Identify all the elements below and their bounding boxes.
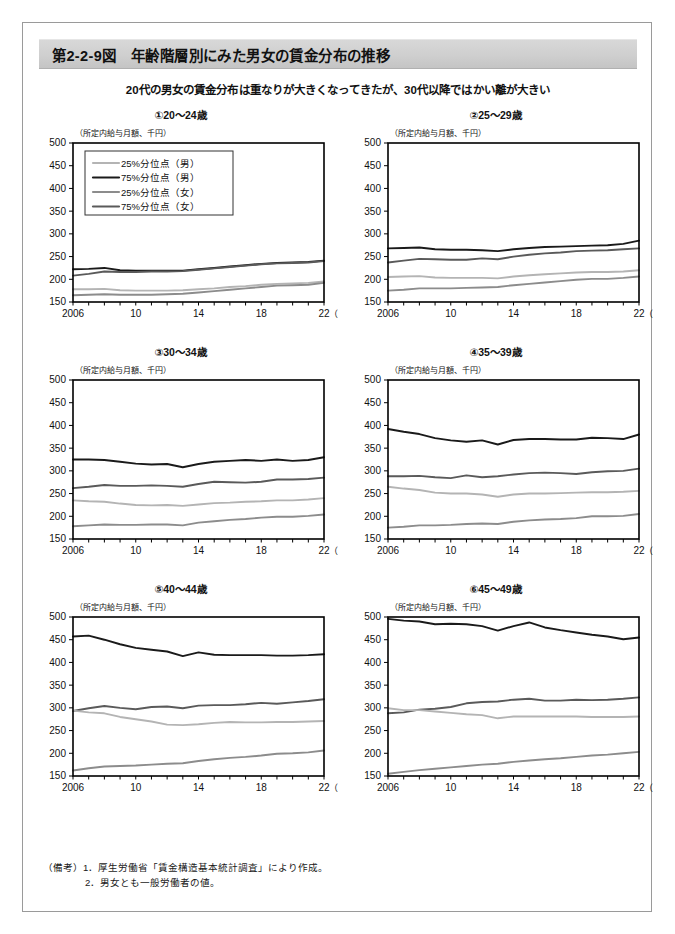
y-axis-tick-label: 500 bbox=[49, 137, 66, 148]
y-axis-tick-label: 150 bbox=[364, 770, 381, 781]
panel-plot-area: （所定内給与月額、千円）1502002503003504004505002006… bbox=[23, 595, 338, 810]
note-line-2: 2．男女とも一般労働者の値。 bbox=[43, 876, 643, 891]
x-axis-tick-label: 10 bbox=[445, 308, 457, 319]
y-axis-tick-label: 150 bbox=[364, 296, 381, 307]
note-text: 2．男女とも一般労働者の値。 bbox=[85, 877, 220, 888]
figure-notes: （備考）1．厚生労働省「賃金構造基本統計調査」により作成。 2．男女とも一般労働… bbox=[43, 861, 643, 891]
x-axis-tick-label: 14 bbox=[508, 545, 520, 556]
y-axis-tick-label: 300 bbox=[364, 465, 381, 476]
y-axis-tick-label: 450 bbox=[49, 397, 66, 408]
y-axis-tick-label: 250 bbox=[364, 725, 381, 736]
chart-row: ⑤40～44歳 （所定内給与月額、千円）15020025030035040045… bbox=[23, 577, 653, 814]
y-axis-unit-label: （所定内給与月額、千円） bbox=[390, 128, 486, 138]
x-axis-label: （年） bbox=[329, 308, 338, 319]
y-axis-tick-label: 300 bbox=[49, 702, 66, 713]
x-axis-tick-label: 18 bbox=[256, 545, 268, 556]
y-axis-tick-label: 400 bbox=[49, 420, 66, 431]
panel-title: ⑤40～44歳 bbox=[23, 581, 338, 596]
chart-row: ①20～24歳 （所定内給与月額、千円）15020025030035040045… bbox=[23, 103, 653, 340]
x-axis-label: （年） bbox=[644, 545, 653, 556]
y-axis-tick-label: 150 bbox=[364, 533, 381, 544]
x-axis-tick-label: 2006 bbox=[62, 545, 85, 556]
x-axis-tick-label: 10 bbox=[130, 308, 142, 319]
y-axis-tick-label: 450 bbox=[364, 160, 381, 171]
chart-panel-4: ④35～39歳 （所定内給与月額、千円）15020025030035040045… bbox=[338, 340, 653, 577]
y-axis-tick-label: 250 bbox=[364, 251, 381, 262]
chart-panel-5: ⑤40～44歳 （所定内給与月額、千円）15020025030035040045… bbox=[23, 577, 338, 814]
y-axis-tick-label: 350 bbox=[49, 680, 66, 691]
page-title: 第2-2-9図 年齢階層別にみた男女の賃金分布の推移 bbox=[39, 44, 390, 65]
y-axis-tick-label: 350 bbox=[49, 206, 66, 217]
y-axis-tick-label: 350 bbox=[364, 443, 381, 454]
panel-chart-svg: （所定内給与月額、千円）1502002503003504004505002006… bbox=[338, 358, 653, 573]
legend-label-p25_male: 25%分位点（男） bbox=[121, 158, 200, 169]
x-axis-tick-label: 18 bbox=[256, 782, 268, 793]
y-axis-tick-label: 250 bbox=[49, 251, 66, 262]
x-axis-tick-label: 2006 bbox=[62, 308, 85, 319]
y-axis-unit-label: （所定内給与月額、千円） bbox=[75, 128, 171, 138]
y-axis-tick-label: 350 bbox=[49, 443, 66, 454]
x-axis-tick-label: 10 bbox=[445, 782, 457, 793]
y-axis-tick-label: 500 bbox=[364, 374, 381, 385]
y-axis-tick-label: 250 bbox=[364, 488, 381, 499]
panel-plot-area: （所定内給与月額、千円）1502002503003504004505002006… bbox=[338, 595, 653, 810]
x-axis-tick-label: 2006 bbox=[377, 308, 400, 319]
x-axis-label: （年） bbox=[329, 782, 338, 793]
panel-title: ⑥45～49歳 bbox=[338, 581, 653, 596]
plot-background bbox=[388, 617, 639, 776]
panel-title: ①20～24歳 bbox=[23, 107, 338, 122]
y-axis-tick-label: 400 bbox=[364, 183, 381, 194]
x-axis-tick-label: 14 bbox=[193, 782, 205, 793]
y-axis-tick-label: 500 bbox=[364, 611, 381, 622]
x-axis-tick-label: 18 bbox=[571, 308, 583, 319]
x-axis-tick-label: 2006 bbox=[377, 782, 400, 793]
y-axis-tick-label: 400 bbox=[49, 183, 66, 194]
panel-chart-svg: （所定内給与月額、千円）1502002503003504004505002006… bbox=[338, 121, 653, 336]
x-axis-tick-label: 10 bbox=[130, 782, 142, 793]
x-axis-label: （年） bbox=[644, 308, 653, 319]
x-axis-tick-label: 10 bbox=[445, 545, 457, 556]
y-axis-tick-label: 150 bbox=[49, 533, 66, 544]
x-axis-tick-label: 10 bbox=[130, 545, 142, 556]
x-axis-tick-label: 18 bbox=[571, 782, 583, 793]
x-axis-tick-label: 14 bbox=[508, 308, 520, 319]
note-text: 1．厚生労働省「賃金構造基本統計調査」により作成。 bbox=[83, 862, 328, 873]
y-axis-unit-label: （所定内給与月額、千円） bbox=[75, 365, 171, 375]
x-axis-tick-label: 2006 bbox=[62, 782, 85, 793]
panel-chart-svg: （所定内給与月額、千円）1502002503003504004505002006… bbox=[23, 121, 338, 336]
y-axis-unit-label: （所定内給与月額、千円） bbox=[390, 365, 486, 375]
panel-title: ④35～39歳 bbox=[338, 344, 653, 359]
y-axis-tick-label: 150 bbox=[49, 296, 66, 307]
x-axis-label: （年） bbox=[329, 545, 338, 556]
y-axis-tick-label: 500 bbox=[364, 137, 381, 148]
figure-page: 第2-2-9図 年齢階層別にみた男女の賃金分布の推移 20代の男女の賃金分布は重… bbox=[0, 0, 675, 934]
y-axis-tick-label: 200 bbox=[364, 748, 381, 759]
y-axis-tick-label: 200 bbox=[364, 511, 381, 522]
x-axis-tick-label: 2006 bbox=[377, 545, 400, 556]
panel-title: ②25～29歳 bbox=[338, 107, 653, 122]
panel-plot-area: （所定内給与月額、千円）1502002503003504004505002006… bbox=[23, 358, 338, 573]
y-axis-tick-label: 200 bbox=[49, 748, 66, 759]
chart-panel-3: ③30～34歳 （所定内給与月額、千円）15020025030035040045… bbox=[23, 340, 338, 577]
legend-label-p75_female: 75%分位点（女） bbox=[121, 201, 200, 212]
chart-panel-1: ①20～24歳 （所定内給与月額、千円）15020025030035040045… bbox=[23, 103, 338, 340]
panel-chart-svg: （所定内給与月額、千円）1502002503003504004505002006… bbox=[338, 595, 653, 810]
y-axis-tick-label: 150 bbox=[49, 770, 66, 781]
panel-plot-area: （所定内給与月額、千円）1502002503003504004505002006… bbox=[338, 121, 653, 336]
note-line-1: （備考）1．厚生労働省「賃金構造基本統計調査」により作成。 bbox=[43, 861, 643, 876]
y-axis-tick-label: 450 bbox=[364, 397, 381, 408]
y-axis-tick-label: 300 bbox=[49, 228, 66, 239]
y-axis-tick-label: 450 bbox=[364, 634, 381, 645]
y-axis-tick-label: 250 bbox=[49, 725, 66, 736]
panel-title: ③30～34歳 bbox=[23, 344, 338, 359]
y-axis-tick-label: 350 bbox=[364, 680, 381, 691]
plot-background bbox=[388, 380, 639, 539]
figure-frame: 第2-2-9図 年齢階層別にみた男女の賃金分布の推移 20代の男女の賃金分布は重… bbox=[22, 22, 652, 912]
y-axis-tick-label: 400 bbox=[49, 657, 66, 668]
x-axis-tick-label: 14 bbox=[193, 545, 205, 556]
y-axis-tick-label: 350 bbox=[364, 206, 381, 217]
panel-plot-area: （所定内給与月額、千円）1502002503003504004505002006… bbox=[338, 358, 653, 573]
y-axis-tick-label: 500 bbox=[49, 611, 66, 622]
y-axis-tick-label: 250 bbox=[49, 488, 66, 499]
y-axis-tick-label: 400 bbox=[364, 420, 381, 431]
